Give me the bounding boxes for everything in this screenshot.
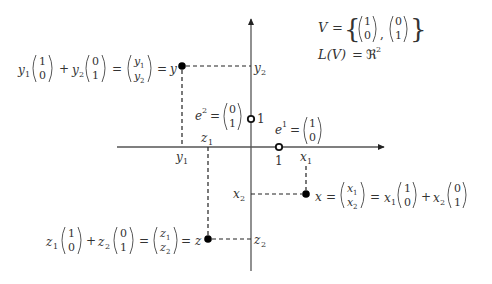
svg-text:1: 1 xyxy=(391,198,396,207)
svg-text:x: x xyxy=(433,191,440,205)
svg-text:1: 1 xyxy=(53,242,58,251)
svg-text:2: 2 xyxy=(140,77,144,85)
svg-text:1: 1 xyxy=(25,70,30,79)
svg-text:1: 1 xyxy=(364,15,371,28)
svg-text:=: = xyxy=(370,190,380,204)
svg-text:+: + xyxy=(86,234,96,248)
svg-text:x: x xyxy=(315,190,322,204)
label-x2: x 2 xyxy=(233,187,245,203)
svg-text:0: 0 xyxy=(39,69,46,82)
svg-text:1: 1 xyxy=(140,62,144,70)
svg-text:=: = xyxy=(326,190,336,204)
svg-text:,: , xyxy=(380,27,384,41)
point-x xyxy=(302,190,310,198)
svg-text:0: 0 xyxy=(120,227,127,240)
svg-text:+: + xyxy=(59,62,69,76)
svg-text:x: x xyxy=(233,187,240,201)
e2-definition: e 2 = 0 1 xyxy=(195,103,241,130)
svg-text:+: + xyxy=(421,190,431,204)
point-y xyxy=(178,62,186,70)
svg-text:z: z xyxy=(194,234,202,248)
svg-text:L(V): L(V) xyxy=(317,47,346,62)
e1-definition: e 1 = 1 0 xyxy=(275,117,321,144)
svg-text:2: 2 xyxy=(166,248,170,256)
svg-text:1: 1 xyxy=(208,138,213,147)
svg-text:y: y xyxy=(169,62,177,76)
svg-text:0: 0 xyxy=(364,29,371,42)
svg-text:0: 0 xyxy=(404,196,411,209)
svg-text:2: 2 xyxy=(261,68,266,77)
svg-text:1: 1 xyxy=(454,196,461,209)
svg-text:1: 1 xyxy=(183,157,188,166)
svg-text:1: 1 xyxy=(395,29,402,42)
svg-text:0: 0 xyxy=(229,103,236,116)
svg-text:1: 1 xyxy=(39,55,46,68)
svg-text:x: x xyxy=(300,150,307,164)
e1-tick-label: 1 xyxy=(275,154,283,168)
svg-text:2: 2 xyxy=(261,240,266,249)
svg-text:V: V xyxy=(318,20,329,35)
svg-text:z: z xyxy=(200,131,208,145)
svg-text:1: 1 xyxy=(353,189,357,197)
svg-text:{: { xyxy=(344,14,361,44)
svg-text:z: z xyxy=(45,235,53,249)
svg-text:}: } xyxy=(410,14,427,44)
svg-text:x: x xyxy=(384,191,391,205)
svg-text:1: 1 xyxy=(404,182,411,195)
svg-text:1: 1 xyxy=(307,157,312,166)
svg-text:z: z xyxy=(97,235,105,249)
svg-text:2: 2 xyxy=(240,194,245,203)
svg-text:y: y xyxy=(253,61,261,75)
svg-text:0: 0 xyxy=(92,55,99,68)
svg-text:z: z xyxy=(159,241,166,254)
span-definition: L(V) = ℜ 2 xyxy=(317,45,381,62)
svg-text:=: = xyxy=(181,234,191,248)
svg-text:=: = xyxy=(139,234,149,248)
svg-text:1: 1 xyxy=(166,234,170,242)
svg-text:1: 1 xyxy=(120,241,127,254)
svg-text:2: 2 xyxy=(376,45,381,54)
svg-text:=: = xyxy=(352,47,363,62)
svg-text:1: 1 xyxy=(229,117,236,130)
svg-text:=: = xyxy=(157,62,167,76)
e2-tick-label: 1 xyxy=(257,112,265,126)
label-y2: y 2 xyxy=(253,61,266,77)
label-y1: y 1 xyxy=(175,150,188,166)
label-z2: z 2 xyxy=(253,233,266,249)
svg-text:=: = xyxy=(112,62,122,76)
svg-text:z: z xyxy=(253,233,261,247)
point-z xyxy=(204,235,212,243)
svg-text:1: 1 xyxy=(68,227,75,240)
label-x1: x 1 xyxy=(300,150,312,166)
e1-point xyxy=(276,144,282,150)
svg-text:0: 0 xyxy=(68,241,75,254)
set-V-definition: V = { 1 0 , 0 1 } xyxy=(318,14,427,44)
svg-text:z: z xyxy=(159,227,166,240)
svg-text:1: 1 xyxy=(92,69,99,82)
svg-text:2: 2 xyxy=(105,242,110,251)
svg-text:=: = xyxy=(290,123,300,137)
svg-text:1: 1 xyxy=(282,120,287,129)
svg-text:2: 2 xyxy=(202,106,207,115)
y-equation: y 1 1 0 + y 2 0 1 = y 1 y 2 = y xyxy=(17,55,177,85)
svg-text:0: 0 xyxy=(309,131,316,144)
x-equation: x = x 1 x 2 = x 1 1 0 + x 2 0 1 xyxy=(315,182,466,211)
vector-space-diagram: 1 1 y 2 y 1 z 1 x 1 x 2 z 2 e 2 = 0 1 e … xyxy=(0,0,492,284)
svg-text:2: 2 xyxy=(79,70,84,79)
svg-text:y: y xyxy=(17,63,25,77)
svg-text:=: = xyxy=(332,20,343,35)
z-equation: z 1 1 0 + z 2 0 1 = z 1 z 2 = z xyxy=(45,227,202,256)
svg-text:0: 0 xyxy=(395,15,402,28)
svg-text:2: 2 xyxy=(353,203,357,211)
svg-text:y: y xyxy=(175,150,183,164)
svg-text:0: 0 xyxy=(454,182,461,195)
svg-text:1: 1 xyxy=(309,117,316,130)
svg-text:=: = xyxy=(210,109,220,123)
svg-text:y: y xyxy=(71,63,79,77)
e2-point xyxy=(248,116,254,122)
svg-text:2: 2 xyxy=(440,198,445,207)
label-z1: z 1 xyxy=(200,131,213,147)
